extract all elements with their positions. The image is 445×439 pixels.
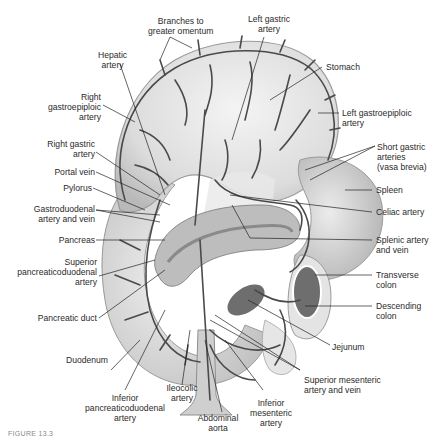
label-line: artery <box>80 413 170 423</box>
label-line: colon <box>376 280 419 290</box>
label-spleen: Spleen <box>376 185 403 195</box>
label-branches-to-greater-omentum: Branches to greater omentum <box>148 16 213 36</box>
label-line: artery <box>5 277 97 287</box>
label-line: Pancreas <box>30 235 95 245</box>
label-line: Pancreatic duct <box>15 313 97 323</box>
label-gastroduodenal-artery-and-vein: Gastroduodenal artery and vein <box>10 204 95 224</box>
label-line: artery <box>98 60 127 70</box>
label-line: Gastroduodenal <box>10 204 95 214</box>
label-pancreatic-duct: Pancreatic duct <box>15 313 97 323</box>
label-line: arteries <box>377 152 427 162</box>
label-pylorus: Pylorus <box>30 183 92 193</box>
label-line: Left gastric <box>248 14 290 24</box>
label-left-gastroepiploic-artery: Left gastroepiploic artery <box>342 108 412 128</box>
pancreas-shape <box>155 205 300 286</box>
label-line: and vein <box>376 245 429 255</box>
label-line: Stomach <box>326 62 360 72</box>
label-inferior-mesenteric-artery: Inferior mesenteric artery <box>246 398 296 428</box>
label-line: Inferior <box>246 398 296 408</box>
label-line: Abdominal <box>193 413 243 423</box>
label-pancreas: Pancreas <box>30 235 95 245</box>
label-line: artery <box>160 393 204 403</box>
label-line: Short gastric <box>377 142 427 152</box>
label-ileocolic-artery: Ileocolic artery <box>160 383 204 403</box>
label-right-gastroepiploic-artery: Right gastroepiploic artery <box>45 92 101 122</box>
anatomy-diagram: Branches to greater omentum Left gastric… <box>0 0 445 439</box>
label-hepatic-artery: Hepatic artery <box>98 50 127 70</box>
label-line: Jejunum <box>332 342 364 352</box>
label-transverse-colon: Transverse colon <box>376 270 419 290</box>
label-line: Ileocolic <box>160 383 204 393</box>
label-line: Celiac artery <box>376 207 424 217</box>
label-line: Portal vein <box>30 167 95 177</box>
label-line: (vasa brevia) <box>377 162 427 172</box>
label-line: gastroepiploic <box>45 102 101 112</box>
label-line: Duodenum <box>40 355 108 365</box>
label-line: Splenic artery <box>376 235 429 245</box>
label-line: aorta <box>193 423 243 433</box>
label-abdominal-aorta: Abdominal aorta <box>193 413 243 433</box>
label-line: Spleen <box>376 185 403 195</box>
label-line: greater omentum <box>148 26 213 36</box>
label-line: pancreaticoduodenal <box>80 403 170 413</box>
label-splenic-artery-and-vein: Splenic artery and vein <box>376 235 429 255</box>
figure-caption: FIGURE 13.3 <box>8 430 53 437</box>
label-line: artery <box>45 112 101 122</box>
label-line: colon <box>376 311 421 321</box>
label-line: artery <box>30 149 95 159</box>
label-duodenum: Duodenum <box>40 355 108 365</box>
label-line: Branches to <box>148 16 213 26</box>
label-right-gastric-artery: Right gastric artery <box>30 139 95 159</box>
label-line: pancreaticoduodenal <box>5 267 97 277</box>
label-line: artery and vein <box>304 385 381 395</box>
label-celiac-artery: Celiac artery <box>376 207 424 217</box>
label-line: Hepatic <box>98 50 127 60</box>
label-line: artery <box>248 24 290 34</box>
label-line: Superior mesenteric <box>304 375 381 385</box>
label-line: Right <box>45 92 101 102</box>
label-line: Transverse <box>376 270 419 280</box>
label-jejunum: Jejunum <box>332 342 364 352</box>
label-superior-mesenteric-artery-and-vein: Superior mesenteric artery and vein <box>304 375 381 395</box>
label-descending-colon: Descending colon <box>376 301 421 321</box>
label-stomach: Stomach <box>326 62 360 72</box>
label-superior-pancreaticoduodenal-artery: Superior pancreaticoduodenal artery <box>5 257 97 287</box>
label-line: Inferior <box>80 393 170 403</box>
label-line: Superior <box>5 257 97 267</box>
label-portal-vein: Portal vein <box>30 167 95 177</box>
label-line: Pylorus <box>30 183 92 193</box>
label-line: Descending <box>376 301 421 311</box>
label-line: Right gastric <box>30 139 95 149</box>
label-line: artery <box>342 118 412 128</box>
label-left-gastric-artery: Left gastric artery <box>248 14 290 34</box>
label-line: mesenteric <box>246 408 296 418</box>
label-short-gastric-arteries: Short gastric arteries (vasa brevia) <box>377 142 427 172</box>
label-line: Left gastroepiploic <box>342 108 412 118</box>
label-line: artery and vein <box>10 214 95 224</box>
label-line: artery <box>246 418 296 428</box>
jejunum-shape <box>262 320 296 375</box>
label-inferior-pancreaticoduodenal-artery: Inferior pancreaticoduodenal artery <box>80 393 170 423</box>
